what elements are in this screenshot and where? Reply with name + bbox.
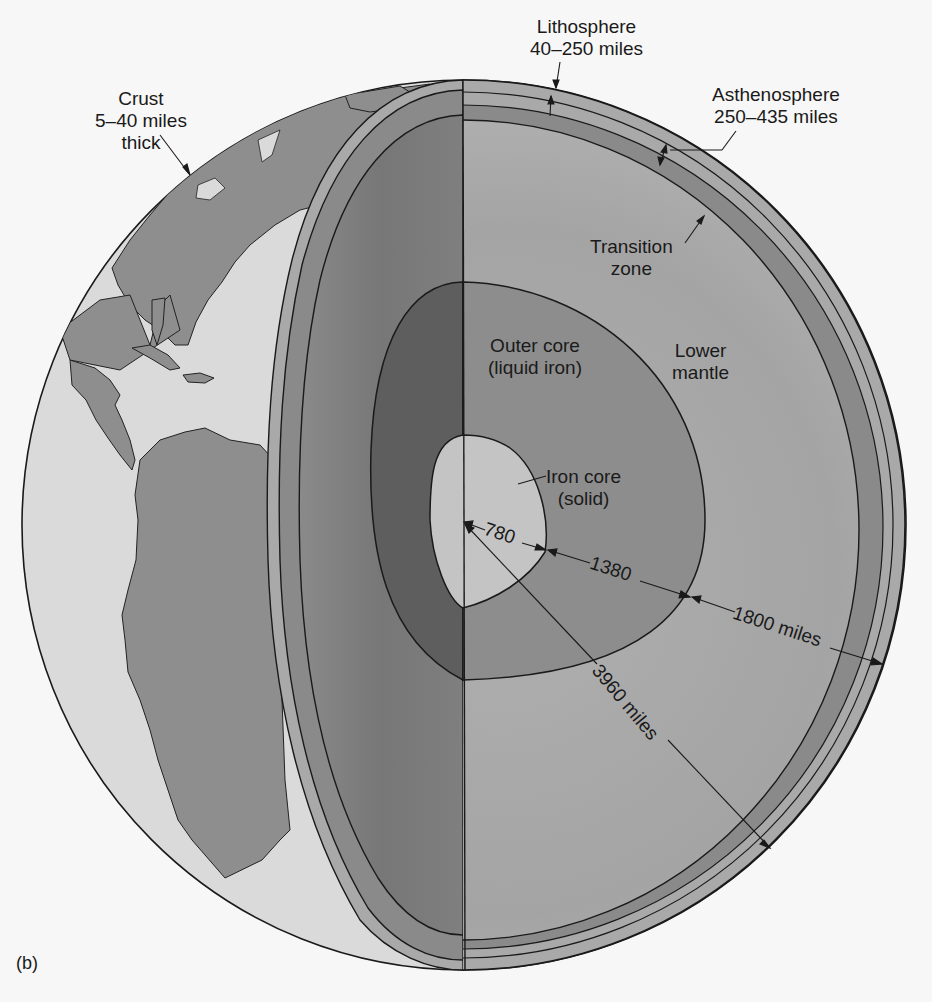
- lower-mantle-label-line2: mantle: [672, 362, 729, 384]
- panel-label: (b): [16, 953, 38, 974]
- iron-core-label: Iron core (solid): [546, 466, 621, 510]
- asthenosphere-label: Asthenosphere 250–435 miles: [712, 84, 840, 128]
- lower-mantle-label: Lower mantle: [672, 340, 729, 384]
- lithosphere-label-range: 40–250 miles: [530, 38, 643, 60]
- transition-zone-label: Transition zone: [590, 236, 673, 280]
- lower-mantle-label-line1: Lower: [672, 340, 729, 362]
- crust-label: Crust 5–40 miles thick: [95, 88, 187, 154]
- lithosphere-label-title: Lithosphere: [530, 16, 643, 38]
- iron-core-label-title: Iron core: [546, 466, 621, 488]
- outer-core-label-title: Outer core: [488, 335, 582, 357]
- iron-core-label-desc: (solid): [546, 488, 621, 510]
- crust-label-range: 5–40 miles: [95, 110, 187, 132]
- crust-label-thick: thick: [95, 132, 187, 154]
- crust-label-title: Crust: [95, 88, 187, 110]
- asthenosphere-label-title: Asthenosphere: [712, 84, 840, 106]
- outer-core-label-desc: (liquid iron): [488, 357, 582, 379]
- transition-zone-label-line1: Transition: [590, 236, 673, 258]
- transition-zone-label-line2: zone: [590, 258, 673, 280]
- outer-core-label: Outer core (liquid iron): [488, 335, 582, 379]
- earth-interior-diagram: Crust 5–40 miles thick Lithosphere 40–25…: [0, 0, 932, 1002]
- asthenosphere-label-range: 250–435 miles: [712, 106, 840, 128]
- lithosphere-label: Lithosphere 40–250 miles: [530, 16, 643, 60]
